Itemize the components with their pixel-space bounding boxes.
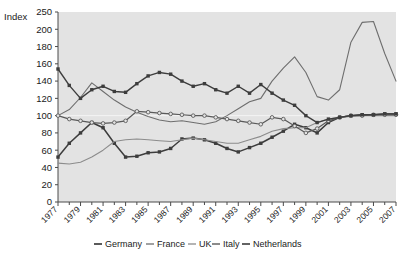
data-point-marker — [270, 136, 273, 139]
data-point-marker — [67, 117, 71, 121]
data-point-marker — [124, 119, 128, 123]
data-point-marker — [135, 110, 139, 114]
data-point-marker — [56, 155, 59, 158]
data-point-marker — [158, 150, 161, 153]
y-axis-title: Index — [4, 11, 27, 22]
y-tick-label: 120 — [36, 93, 52, 104]
data-point-marker — [56, 114, 60, 118]
data-point-marker — [90, 88, 93, 91]
data-point-marker — [282, 129, 285, 132]
data-point-marker — [79, 131, 82, 134]
data-point-marker — [56, 67, 59, 70]
data-point-marker — [124, 155, 127, 158]
legend-label: Netherlands — [253, 239, 302, 249]
data-point-marker — [79, 97, 82, 100]
data-point-marker — [225, 147, 228, 150]
data-point-marker — [180, 113, 184, 117]
y-tick-label: 140 — [36, 75, 52, 86]
plot-area-background — [58, 12, 396, 202]
data-point-marker — [146, 110, 150, 114]
data-point-marker — [68, 84, 71, 87]
data-point-marker — [293, 124, 297, 128]
data-point-marker — [237, 85, 240, 88]
legend-label: UK — [199, 239, 212, 249]
y-tick-label: 160 — [36, 58, 52, 69]
y-tick-label: 180 — [36, 41, 52, 52]
data-point-marker — [169, 112, 173, 116]
data-point-marker — [361, 113, 364, 116]
y-tick-label: 80 — [41, 127, 52, 138]
data-point-marker — [79, 119, 83, 123]
y-tick-label: 60 — [41, 145, 52, 156]
data-point-marker — [259, 142, 262, 145]
data-point-marker — [248, 121, 252, 125]
data-point-marker — [270, 91, 273, 94]
data-point-marker — [315, 127, 319, 131]
data-point-marker — [304, 131, 308, 135]
data-point-marker — [113, 121, 117, 125]
line-chart: 020406080100120140160180200250 197719791… — [0, 0, 410, 261]
data-point-marker — [338, 116, 341, 119]
data-point-marker — [214, 88, 217, 91]
data-point-marker — [259, 122, 263, 126]
y-tick-label: 20 — [41, 179, 52, 190]
data-point-marker — [225, 91, 228, 94]
data-point-marker — [68, 142, 71, 145]
data-point-marker — [113, 90, 116, 93]
data-point-marker — [135, 155, 138, 158]
data-point-marker — [180, 79, 183, 82]
data-point-marker — [203, 82, 206, 85]
data-point-marker — [236, 119, 240, 123]
data-point-marker — [383, 112, 386, 115]
legend-label: Italy — [223, 239, 240, 249]
data-point-marker — [203, 114, 207, 118]
data-point-marker — [101, 122, 105, 126]
data-point-marker — [146, 151, 149, 154]
legend-label: Germany — [105, 239, 143, 249]
y-tick-label: 200 — [36, 24, 52, 35]
data-point-marker — [192, 85, 195, 88]
data-point-marker — [270, 116, 274, 120]
data-point-marker — [90, 121, 94, 125]
data-point-marker — [394, 112, 397, 115]
data-point-marker — [158, 111, 162, 115]
y-tick-label: 40 — [41, 162, 52, 173]
data-point-marker — [248, 146, 251, 149]
data-point-marker — [135, 82, 138, 85]
legend-label: France — [157, 239, 185, 249]
data-point-marker — [191, 114, 195, 118]
data-point-marker — [259, 83, 262, 86]
data-point-marker — [315, 131, 318, 134]
data-point-marker — [146, 74, 149, 77]
data-point-marker — [101, 85, 104, 88]
data-point-marker — [304, 114, 307, 117]
data-point-marker — [282, 117, 286, 121]
data-point-marker — [349, 114, 352, 117]
y-tick-label: 100 — [36, 110, 52, 121]
data-point-marker — [169, 147, 172, 150]
data-point-marker — [124, 91, 127, 94]
chart-container: 020406080100120140160180200250 197719791… — [0, 0, 410, 261]
data-point-marker — [248, 91, 251, 94]
data-point-marker — [372, 113, 375, 116]
data-point-marker — [101, 126, 104, 129]
data-point-marker — [225, 117, 229, 121]
data-point-marker — [158, 71, 161, 74]
y-tick-label: 250 — [36, 6, 52, 17]
data-point-marker — [169, 72, 172, 75]
data-point-marker — [327, 117, 330, 120]
data-point-marker — [315, 121, 318, 124]
data-point-marker — [282, 98, 285, 101]
data-point-marker — [214, 116, 218, 120]
data-point-marker — [293, 104, 296, 107]
data-point-marker — [237, 150, 240, 153]
